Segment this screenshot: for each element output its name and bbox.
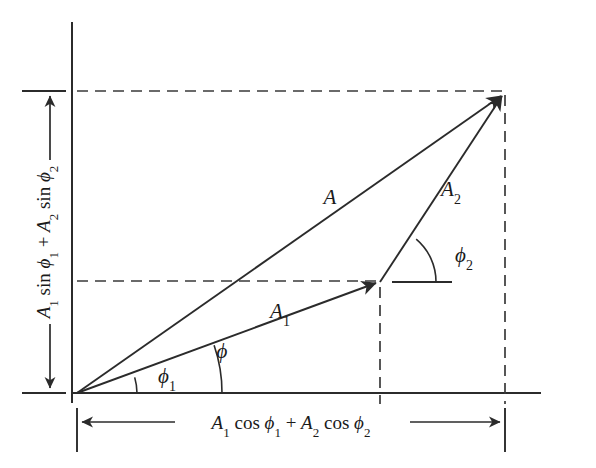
label-A1-symbol: A — [268, 299, 283, 323]
phi1-angle-arc — [135, 377, 137, 393]
hdim-plus: + — [281, 412, 301, 433]
label-A2-sub: 2 — [454, 192, 461, 207]
vertical-dimension-group: A1 sin ϕ1 + A2 sin ϕ2 — [22, 91, 66, 393]
label-A2-symbol: A — [439, 177, 454, 201]
label-phi2-sub: 2 — [466, 258, 473, 273]
label-vector-A1: A1 — [268, 299, 290, 329]
label-A1-sub: 1 — [283, 314, 290, 329]
vdim-phi2-symbol: ϕ — [33, 172, 54, 182]
phi2-angle-arc — [416, 239, 436, 282]
label-angle-phi: ϕ — [217, 339, 228, 363]
hdim-phi2-symbol: ϕ — [354, 412, 364, 433]
vector-A1 — [77, 283, 376, 393]
label-angle-phi2: ϕ2 — [455, 243, 473, 273]
vdim-A2-symbol: A — [33, 220, 54, 234]
hdim-cos-2: cos — [319, 412, 354, 433]
axis-group — [72, 22, 541, 403]
hdim-A1-symbol: A — [210, 412, 224, 433]
vdim-sin-2: sin — [33, 182, 54, 214]
label-angle-phi1: ϕ1 — [158, 364, 176, 394]
vector-addition-diagram: A1 sin ϕ1 + A2 sin ϕ2 A1 cos ϕ1 + A2 cos… — [0, 0, 596, 468]
hdim-phi1-symbol: ϕ — [265, 412, 275, 433]
label-resultant-A: A — [322, 185, 337, 209]
vertical-dimension-label: A1 sin ϕ1 + A2 sin ϕ2 — [33, 166, 61, 321]
vdim-plus: + — [33, 232, 54, 252]
label-phi1-symbol: ϕ — [158, 364, 169, 388]
horizontal-dimension-group: A1 cos ϕ1 + A2 cos ϕ2 — [77, 408, 505, 452]
figure-container: A1 sin ϕ1 + A2 sin ϕ2 A1 cos ϕ1 + A2 cos… — [0, 0, 596, 468]
hdim-A2-symbol: A — [299, 412, 313, 433]
hdim-phi2-sub: 2 — [364, 425, 371, 440]
vector-group — [77, 96, 502, 393]
label-vector-A2: A2 — [439, 177, 461, 207]
vdim-A1-symbol: A — [33, 306, 54, 320]
vdim-sin-1: sin — [33, 268, 54, 300]
resultant-vector-A — [77, 96, 501, 393]
label-phi2-symbol: ϕ — [455, 243, 466, 267]
vdim-phi1-symbol: ϕ — [33, 258, 54, 268]
label-phi1-sub: 1 — [169, 379, 176, 394]
horizontal-dimension-label: A1 cos ϕ1 + A2 cos ϕ2 — [210, 412, 371, 440]
vdim-phi2-sub: 2 — [46, 166, 61, 173]
hdim-cos-1: cos — [230, 412, 265, 433]
